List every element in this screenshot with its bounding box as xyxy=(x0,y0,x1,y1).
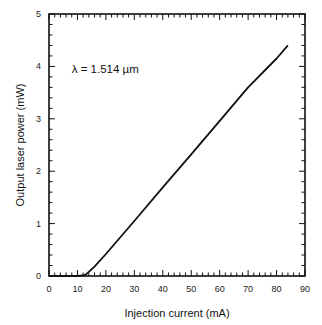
wavelength-annotation: λ = 1.514 µm xyxy=(72,63,139,75)
x-tick-label: 0 xyxy=(46,284,51,294)
x-tick-label: 80 xyxy=(272,284,282,294)
x-tick-label: 20 xyxy=(101,284,111,294)
x-tick-label: 60 xyxy=(215,284,225,294)
y-tick-label: 0 xyxy=(36,271,41,281)
plot-frame xyxy=(49,14,305,276)
x-tick-label: 40 xyxy=(158,284,168,294)
y-tick-label: 1 xyxy=(36,219,41,229)
y-tick-label: 2 xyxy=(36,166,41,176)
x-axis-title: Injection current (mA) xyxy=(124,307,229,319)
x-tick-label: 30 xyxy=(129,284,139,294)
x-tick-label: 70 xyxy=(243,284,253,294)
x-tick-label: 50 xyxy=(186,284,196,294)
y-tick-label: 4 xyxy=(36,61,41,71)
li-curve-line xyxy=(49,45,288,276)
y-axis-title: Output laser power (mW) xyxy=(14,84,26,207)
x-tick-label: 90 xyxy=(300,284,310,294)
y-tick-label: 5 xyxy=(36,9,41,19)
y-tick-label: 3 xyxy=(36,114,41,124)
x-tick-label: 10 xyxy=(72,284,82,294)
chart: 0102030405060708090012345Injection curre… xyxy=(0,0,322,325)
